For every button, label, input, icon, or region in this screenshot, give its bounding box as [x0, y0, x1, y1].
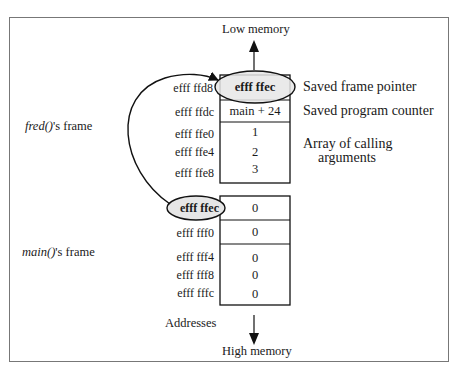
fred-address-2: efff ffe0: [134, 127, 214, 141]
main-address-0: efff ffec: [139, 201, 219, 215]
main-value-0: 0: [220, 201, 290, 215]
fred-address-3: efff ffe4: [134, 145, 214, 159]
main-frame-label: main()'s frame: [22, 245, 95, 259]
saved-frame-pointer-label: Saved frame pointer: [303, 79, 417, 95]
fred-value-0: efff ffec: [220, 80, 290, 94]
fred-address-1: efff ffdc: [134, 105, 214, 119]
fred-address-4: efff ffe8: [134, 166, 214, 180]
fred-frame-label: fred()'s frame: [25, 119, 92, 133]
fred-value-4: 3: [220, 162, 290, 176]
main-address-2: efff fff4: [134, 250, 214, 264]
addresses-label: Addresses: [165, 316, 216, 330]
fred-address-0: efff ffd8: [133, 81, 213, 95]
main-func-name: main(): [22, 245, 55, 259]
main-value-3: 0: [220, 268, 290, 282]
fred-value-1: main + 24: [220, 104, 290, 118]
main-address-3: efff fff8: [134, 268, 214, 282]
main-value-1: 0: [220, 225, 290, 239]
fred-value-3: 2: [220, 145, 290, 159]
fred-func-name: fred(): [25, 119, 53, 133]
diagram-graphics: [0, 0, 468, 374]
saved-program-counter-label: Saved program counter: [303, 103, 434, 119]
main-value-4: 0: [220, 287, 290, 301]
fred-value-2: 1: [220, 125, 290, 139]
main-address-4: efff fffc: [134, 286, 214, 300]
calling-args-label-line2: arguments: [318, 150, 376, 166]
main-value-2: 0: [220, 251, 290, 265]
up-arrow-icon: [249, 40, 259, 52]
low-memory-label: Low memory: [222, 22, 290, 36]
high-memory-label: High memory: [222, 344, 292, 358]
main-address-1: efff fff0: [134, 226, 214, 240]
